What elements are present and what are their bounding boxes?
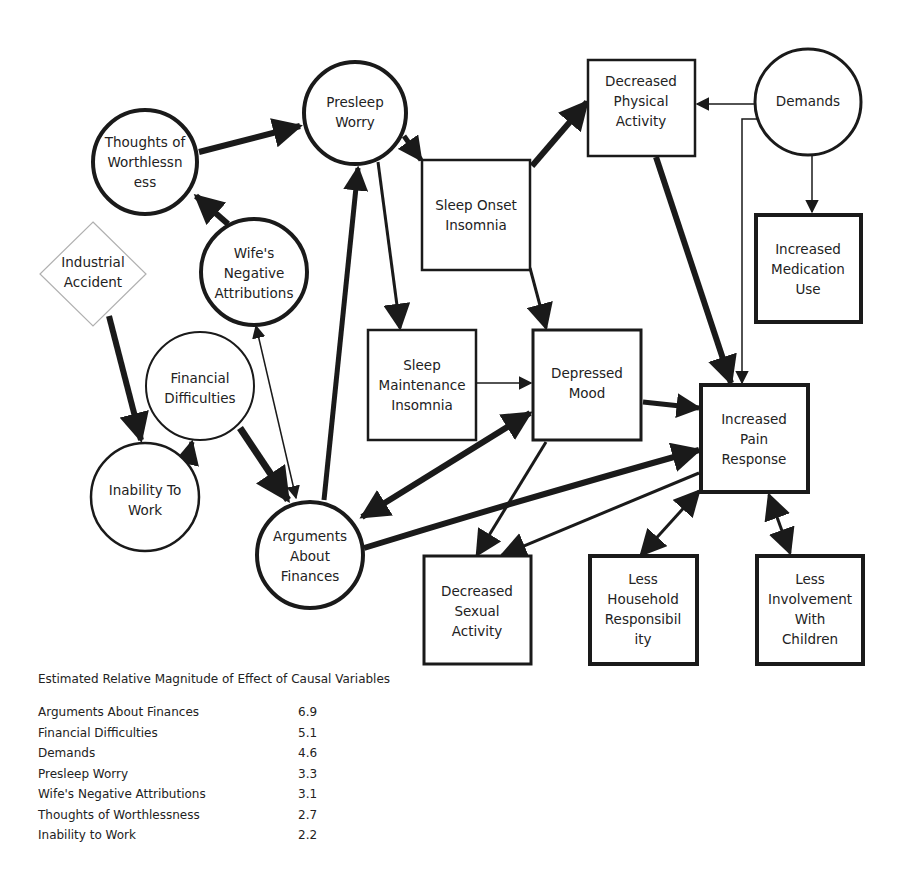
node-label: Physical xyxy=(614,93,669,109)
node-label: Worry xyxy=(335,114,375,130)
node-label: Involvement xyxy=(768,591,852,607)
edge-arguments-wife xyxy=(256,326,296,498)
node-label: Children xyxy=(782,631,838,647)
edge-sleeponset-to-physical xyxy=(532,102,587,166)
node-less-household-responsibility: Less Household Responsibil ity xyxy=(590,556,697,664)
node-thoughts-worthlessness: Thoughts of Worthlessn ess xyxy=(93,110,197,214)
node-label: Insomnia xyxy=(391,397,453,413)
edge-physical-to-pain xyxy=(656,157,731,383)
node-label: Attributions xyxy=(215,285,294,301)
node-label: About xyxy=(290,548,330,564)
node-label: Use xyxy=(795,281,820,297)
node-label: Demands xyxy=(776,93,840,109)
table-row: Thoughts of Worthlessness 2.7 xyxy=(38,805,390,826)
edge-arguments-to-presleep xyxy=(324,168,358,500)
node-increased-medication-use: Increased Medication Use xyxy=(756,215,861,322)
node-industrial-accident: Industrial Accident xyxy=(40,222,146,326)
node-label: Depressed xyxy=(551,365,623,381)
variable-name: Inability to Work xyxy=(38,825,298,846)
node-label: Responsibil xyxy=(605,611,681,627)
variable-name: Thoughts of Worthlessness xyxy=(38,805,298,826)
node-label: Sleep xyxy=(403,357,441,373)
node-label: With xyxy=(795,611,826,627)
node-label: Decreased xyxy=(605,73,677,89)
variable-name: Presleep Worry xyxy=(38,764,298,785)
table-row: Financial Difficulties 5.1 xyxy=(38,723,390,744)
node-label: Accident xyxy=(64,274,122,290)
node-label: Negative xyxy=(224,265,285,281)
variable-name: Arguments About Finances xyxy=(38,702,298,723)
node-depressed-mood: Depressed Mood xyxy=(533,330,641,440)
node-label: Household xyxy=(607,591,678,607)
edge-thoughts-to-presleep xyxy=(199,126,300,152)
node-label: Medication xyxy=(771,261,845,277)
node-label: Response xyxy=(722,451,787,467)
node-demands: Demands xyxy=(755,49,861,155)
node-label: Worthlessn xyxy=(108,154,183,170)
edge-presleep-to-sleepmaint xyxy=(378,162,400,328)
magnitude-value: 3.1 xyxy=(298,784,338,805)
node-sleep-maintenance-insomnia: Sleep Maintenance Insomnia xyxy=(368,330,476,440)
edge-pain-to-sexual xyxy=(502,473,699,555)
effect-magnitude-table: Estimated Relative Magnitude of Effect o… xyxy=(38,672,390,846)
node-inability-to-work: Inability To Work xyxy=(91,443,199,551)
node-decreased-physical-activity: Decreased Physical Activity xyxy=(588,60,695,156)
edge-wife-to-thoughts xyxy=(196,196,228,224)
node-presleep-worry: Presleep Worry xyxy=(304,62,406,164)
table-row: Wife's Negative Attributions 3.1 xyxy=(38,784,390,805)
table-row: Presleep Worry 3.3 xyxy=(38,764,390,785)
edge-financial-to-arguments xyxy=(240,428,288,500)
node-label: Sexual xyxy=(454,603,499,619)
variable-name: Demands xyxy=(38,743,298,764)
edge-presleep-to-sleeponset xyxy=(404,136,421,160)
edge-accident-to-inability xyxy=(109,316,141,440)
table-row: Arguments About Finances 6.9 xyxy=(38,702,390,723)
node-financial-difficulties: Financial Difficulties xyxy=(146,332,254,440)
node-label: Work xyxy=(128,502,162,518)
table-title: Estimated Relative Magnitude of Effect o… xyxy=(38,672,390,686)
node-wifes-negative-attributions: Wife's Negative Attributions xyxy=(201,219,307,325)
node-label: ess xyxy=(134,174,156,190)
table-row: Demands 4.6 xyxy=(38,743,390,764)
table-row: Inability to Work 2.2 xyxy=(38,825,390,846)
node-label: Activity xyxy=(616,113,667,129)
node-arguments-about-finances: Arguments About Finances xyxy=(257,502,363,608)
node-label: Increased xyxy=(775,241,841,257)
magnitude-value: 3.3 xyxy=(298,764,338,785)
node-label: Wife's xyxy=(234,245,275,261)
node-label: Industrial xyxy=(61,254,124,270)
node-label: Decreased xyxy=(441,583,513,599)
node-label: Pain xyxy=(740,431,768,447)
edge-pain-children xyxy=(769,495,790,553)
magnitude-value: 6.9 xyxy=(298,702,338,723)
node-sleep-onset-insomnia: Sleep Onset Insomnia xyxy=(422,160,530,270)
node-label: Maintenance xyxy=(379,377,466,393)
node-label: Insomnia xyxy=(445,217,507,233)
node-label: Activity xyxy=(452,623,503,639)
node-label: Presleep xyxy=(326,94,383,110)
edge-sleeponset-to-mood xyxy=(530,268,546,328)
magnitude-value: 2.7 xyxy=(298,805,338,826)
node-increased-pain-response: Increased Pain Response xyxy=(701,385,808,492)
node-label: Financial xyxy=(170,370,229,386)
node-label: Less xyxy=(795,571,825,587)
edge-pain-household xyxy=(641,491,699,555)
node-label: Mood xyxy=(569,385,606,401)
node-label: Less xyxy=(628,571,658,587)
node-label: Arguments xyxy=(273,528,347,544)
variable-name: Financial Difficulties xyxy=(38,723,298,744)
node-less-involvement-children: Less Involvement With Children xyxy=(757,556,863,664)
node-label: Sleep Onset xyxy=(435,197,517,213)
node-label: Finances xyxy=(281,568,340,584)
magnitude-value: 2.2 xyxy=(298,825,338,846)
variable-name: Wife's Negative Attributions xyxy=(38,784,298,805)
node-label: Difficulties xyxy=(164,390,235,406)
magnitude-value: 5.1 xyxy=(298,723,338,744)
magnitude-value: 4.6 xyxy=(298,743,338,764)
node-decreased-sexual-activity: Decreased Sexual Activity xyxy=(424,556,531,664)
node-label: Inability To xyxy=(109,482,181,498)
node-label: ity xyxy=(634,631,651,647)
node-label: Thoughts of xyxy=(104,134,187,150)
node-label: Increased xyxy=(721,411,787,427)
edge-mood-to-pain xyxy=(643,402,699,408)
